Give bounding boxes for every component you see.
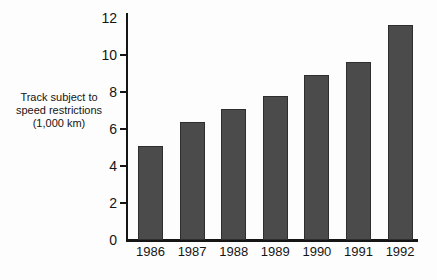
y-tick-label-12: 12 [86, 10, 117, 26]
y-tick-label-10: 10 [86, 47, 117, 63]
x-tick-label-1991: 1991 [337, 244, 381, 259]
bar-1991 [346, 62, 371, 240]
y-tick-mark-2 [120, 202, 126, 204]
x-tick-label-1990: 1990 [295, 244, 339, 259]
bar-1986 [138, 146, 163, 240]
y-tick-mark-6 [120, 128, 126, 130]
y-axis-line [126, 13, 128, 241]
bar-1988 [221, 109, 246, 240]
bar-1987 [180, 122, 205, 240]
bar-1990 [304, 75, 329, 240]
y-tick-label-2: 2 [86, 195, 117, 211]
y-tick-mark-8 [120, 91, 126, 93]
bar-chart-figure: Track subject to speed restrictions (1,0… [0, 0, 437, 280]
bar-1992 [388, 25, 413, 240]
y-tick-mark-10 [120, 54, 126, 56]
y-tick-label-6: 6 [86, 121, 117, 137]
y-tick-label-0: 0 [86, 232, 117, 248]
y-tick-label-8: 8 [86, 84, 117, 100]
x-tick-label-1989: 1989 [253, 244, 297, 259]
y-tick-label-4: 4 [86, 158, 117, 174]
bar-1989 [263, 96, 288, 240]
x-tick-label-1992: 1992 [378, 244, 422, 259]
x-tick-label-1988: 1988 [212, 244, 256, 259]
y-tick-mark-4 [120, 165, 126, 167]
x-tick-label-1986: 1986 [129, 244, 173, 259]
x-tick-label-1987: 1987 [170, 244, 214, 259]
